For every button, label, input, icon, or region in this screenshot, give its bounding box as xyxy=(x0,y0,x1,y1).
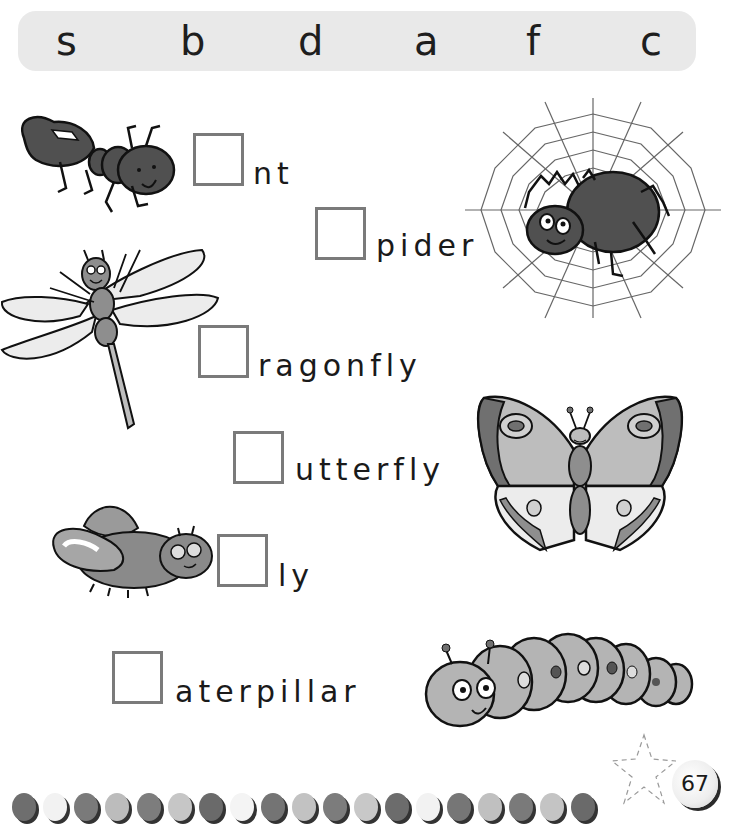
dragonfly-illustration xyxy=(0,232,222,437)
letter-bank: s b d a f c xyxy=(18,11,696,71)
dot-icon xyxy=(385,793,409,821)
ant-illustration xyxy=(14,110,184,220)
dot-icon xyxy=(509,793,533,821)
bank-letter-c: c xyxy=(640,17,662,65)
word-rest-ant: nt xyxy=(253,156,294,192)
dot-icon xyxy=(74,793,98,821)
page-number: 67 xyxy=(672,760,718,808)
dot-icon xyxy=(416,793,440,821)
dot-icon xyxy=(199,793,223,821)
spider-illustration xyxy=(455,92,731,324)
bank-letter-a: a xyxy=(414,17,439,65)
bank-letter-b: b xyxy=(180,17,205,65)
butterfly-illustration xyxy=(470,390,690,560)
dot-icon xyxy=(323,793,347,821)
answer-box-spider[interactable] xyxy=(315,207,366,260)
dot-icon xyxy=(540,793,564,821)
bank-letter-s: s xyxy=(56,17,77,65)
word-rest-fly: ly xyxy=(278,558,314,594)
answer-box-caterpillar[interactable] xyxy=(112,651,163,704)
answer-box-ant[interactable] xyxy=(193,133,244,186)
caterpillar-illustration xyxy=(420,630,705,730)
answer-box-dragonfly[interactable] xyxy=(198,325,249,378)
dot-icon xyxy=(12,793,36,821)
answer-box-butterfly[interactable] xyxy=(233,431,284,484)
dot-icon xyxy=(261,793,285,821)
dot-icon xyxy=(354,793,378,821)
answer-box-fly[interactable] xyxy=(217,534,268,587)
fly-illustration xyxy=(44,498,214,603)
dot-icon xyxy=(137,793,161,821)
dot-icon xyxy=(478,793,502,821)
dashed-star-icon xyxy=(612,733,676,805)
dot-icon xyxy=(230,793,254,821)
dot-icon xyxy=(292,793,316,821)
word-rest-butterfly: utterfly xyxy=(295,452,445,488)
dot-icon xyxy=(168,793,192,821)
word-rest-caterpillar: aterpillar xyxy=(175,674,361,710)
bank-letter-d: d xyxy=(298,17,323,65)
decorative-dot-row xyxy=(0,787,600,827)
dot-icon xyxy=(43,793,67,821)
word-rest-dragonfly: ragonfly xyxy=(258,348,422,384)
dot-icon xyxy=(571,793,595,821)
dot-icon xyxy=(447,793,471,821)
bank-letter-f: f xyxy=(526,17,540,65)
dot-icon xyxy=(105,793,129,821)
